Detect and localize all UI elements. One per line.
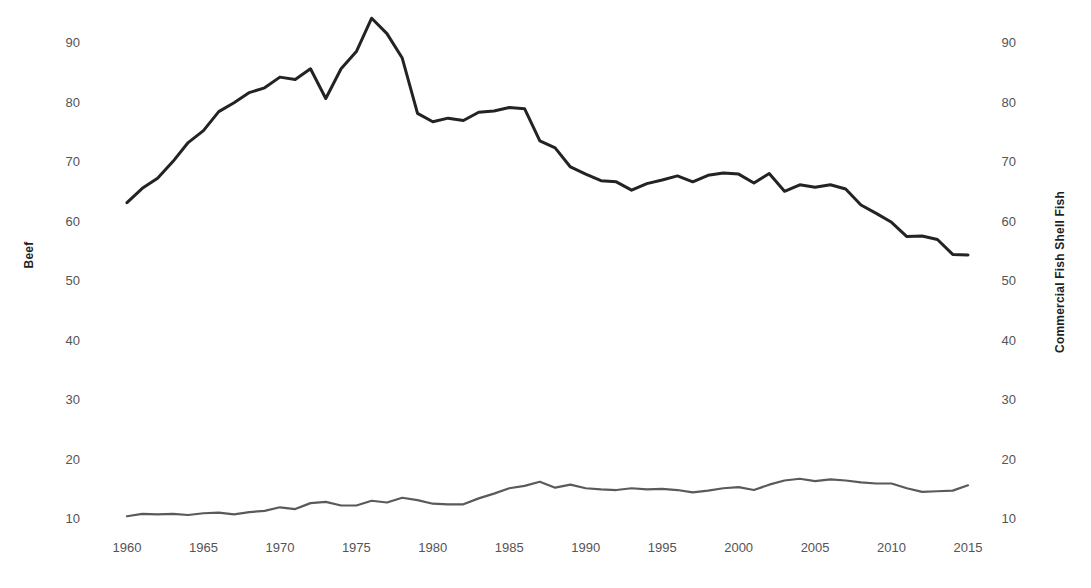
right-axis-tick-label: 10 — [1002, 511, 1016, 526]
x-axis-tick-label: 1990 — [571, 540, 600, 555]
right-axis-tick-label: 40 — [1002, 333, 1016, 348]
right-axis-tick-label: 30 — [1002, 392, 1016, 407]
right-axis-tick-label: 80 — [1002, 95, 1016, 110]
x-axis-tick-label: 2005 — [801, 540, 830, 555]
left-axis: 102030405060708090 — [66, 35, 80, 526]
right-axis-tick-label: 50 — [1002, 273, 1016, 288]
x-axis-tick-label: 1995 — [648, 540, 677, 555]
left-axis-title: Beef — [22, 241, 36, 269]
x-axis-tick-label: 2015 — [954, 540, 983, 555]
x-axis: 1960196519701975198019851990199520002005… — [113, 540, 983, 555]
left-axis-tick-label: 20 — [66, 452, 80, 467]
right-axis-title: Commercial Fish Shell Fish — [1053, 191, 1067, 353]
left-axis-tick-label: 40 — [66, 333, 80, 348]
series-lines — [127, 18, 968, 516]
x-axis-tick-label: 1975 — [342, 540, 371, 555]
x-axis-tick-label: 1980 — [418, 540, 447, 555]
right-axis: 102030405060708090 — [1002, 35, 1016, 526]
right-axis-tick-label: 60 — [1002, 214, 1016, 229]
left-axis-tick-label: 30 — [66, 392, 80, 407]
series-line-commercial-fish-shell-fish — [127, 479, 968, 516]
series-line-beef — [127, 18, 968, 255]
left-axis-tick-label: 10 — [66, 511, 80, 526]
x-axis-tick-label: 1970 — [265, 540, 294, 555]
right-axis-tick-label: 20 — [1002, 452, 1016, 467]
left-axis-tick-label: 50 — [66, 273, 80, 288]
dual-axis-line-chart: 102030405060708090 102030405060708090 19… — [0, 0, 1091, 588]
left-axis-tick-label: 70 — [66, 154, 80, 169]
left-axis-tick-label: 80 — [66, 95, 80, 110]
x-axis-tick-label: 1965 — [189, 540, 218, 555]
x-axis-tick-label: 2010 — [877, 540, 906, 555]
left-axis-tick-label: 90 — [66, 35, 80, 50]
left-axis-tick-label: 60 — [66, 214, 80, 229]
x-axis-tick-label: 1985 — [495, 540, 524, 555]
right-axis-tick-label: 90 — [1002, 35, 1016, 50]
chart-canvas: 102030405060708090 102030405060708090 19… — [0, 0, 1091, 588]
x-axis-tick-label: 1960 — [113, 540, 142, 555]
x-axis-tick-label: 2000 — [724, 540, 753, 555]
right-axis-tick-label: 70 — [1002, 154, 1016, 169]
